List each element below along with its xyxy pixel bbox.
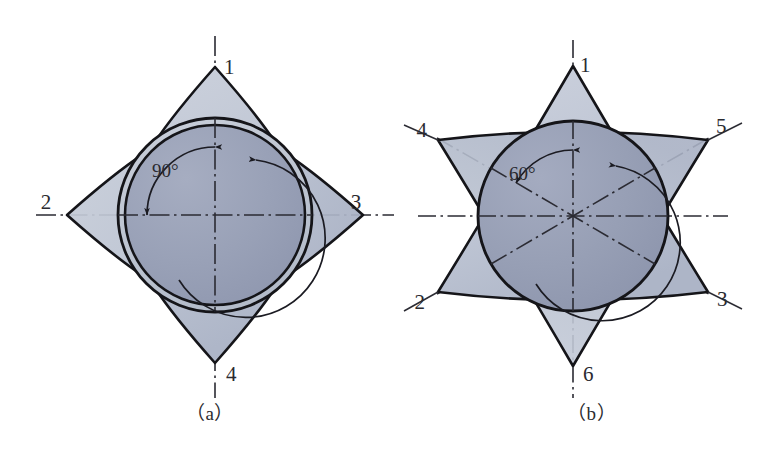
index-label-a-3: 3 <box>351 190 362 214</box>
index-label-b-3: 3 <box>717 287 728 311</box>
panel-caption-a: （a） <box>186 398 234 425</box>
index-label-a-4: 4 <box>226 362 237 386</box>
index-label-a-2: 2 <box>41 190 52 214</box>
index-label-a-1: 1 <box>224 55 235 79</box>
index-label-b-1: 1 <box>580 53 591 77</box>
index-label-b-2: 2 <box>415 290 426 314</box>
index-label-b-5: 5 <box>716 114 727 138</box>
technical-figure-canvas: 90° 1 2 3 4 60° <box>0 0 760 449</box>
index-label-b-4: 4 <box>417 118 428 142</box>
panel-caption-b: （b） <box>567 398 616 425</box>
angle-label-b: 60° <box>509 163 536 184</box>
index-label-b-6: 6 <box>583 362 594 386</box>
panel-b: 60° 1 4 5 2 3 6 <box>404 40 742 398</box>
panel-a: 90° 1 2 3 4 <box>36 36 394 398</box>
angle-label-a: 90° <box>152 160 179 181</box>
